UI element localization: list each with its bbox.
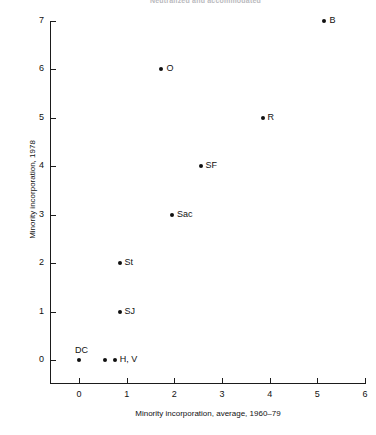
- x-axis-tick: [270, 378, 271, 383]
- y-axis-tick-label: 0: [18, 354, 44, 364]
- y-axis-tick: [51, 312, 56, 313]
- plot-area: 01234567 0123456 DCH, VSJStSacSFORB Mino…: [0, 0, 376, 435]
- data-point: [159, 67, 163, 71]
- x-axis-tick-label: 1: [115, 389, 139, 399]
- data-point-label: SJ: [125, 306, 136, 316]
- x-axis-tick-label: 3: [210, 389, 234, 399]
- x-axis-line: [50, 383, 366, 384]
- data-point: [113, 358, 117, 362]
- y-axis-tick-label: 7: [18, 15, 44, 25]
- y-axis-tick: [51, 21, 56, 22]
- data-point-label: DC: [75, 345, 88, 355]
- data-point: [118, 310, 122, 314]
- data-point: [77, 358, 81, 362]
- y-axis-title: Minority incorporation, 1978: [28, 110, 37, 270]
- y-axis-tick: [51, 360, 56, 361]
- x-axis-title: Minority incorporation, average, 1960–79: [50, 409, 366, 418]
- data-point: [170, 213, 174, 217]
- x-axis-tick: [127, 378, 128, 383]
- y-axis-tick: [51, 263, 56, 264]
- x-axis-tick-label: 5: [305, 389, 329, 399]
- y-axis-tick: [51, 166, 56, 167]
- x-axis-tick: [317, 378, 318, 383]
- y-axis-line: [50, 21, 51, 383]
- data-point: [118, 261, 122, 265]
- y-axis-tick: [51, 118, 56, 119]
- data-point: [103, 358, 107, 362]
- y-axis-tick: [51, 69, 56, 70]
- data-point-label: Sac: [177, 209, 193, 219]
- data-point-label: St: [125, 257, 134, 267]
- x-axis-tick: [174, 378, 175, 383]
- data-point: [261, 116, 265, 120]
- data-point-label: SF: [206, 160, 218, 170]
- x-axis-tick: [222, 378, 223, 383]
- data-point-label: H, V: [120, 354, 138, 364]
- y-axis-tick-label: 6: [18, 63, 44, 73]
- data-point-label: R: [268, 112, 275, 122]
- data-point: [199, 164, 203, 168]
- y-axis-tick-label: 1: [18, 306, 44, 316]
- scatter-plot-figure: Neutralized and accommodated 01234567 01…: [0, 0, 376, 435]
- x-axis-tick-label: 4: [258, 389, 282, 399]
- x-axis-tick: [79, 378, 80, 383]
- y-axis-tick: [51, 215, 56, 216]
- data-point: [322, 19, 326, 23]
- x-axis-tick-label: 2: [162, 389, 186, 399]
- data-point-label: B: [329, 15, 335, 25]
- x-axis-tick-label: 0: [67, 389, 91, 399]
- x-axis-tick: [365, 378, 366, 383]
- x-axis-tick-label: 6: [353, 389, 376, 399]
- data-point-label: O: [166, 63, 173, 73]
